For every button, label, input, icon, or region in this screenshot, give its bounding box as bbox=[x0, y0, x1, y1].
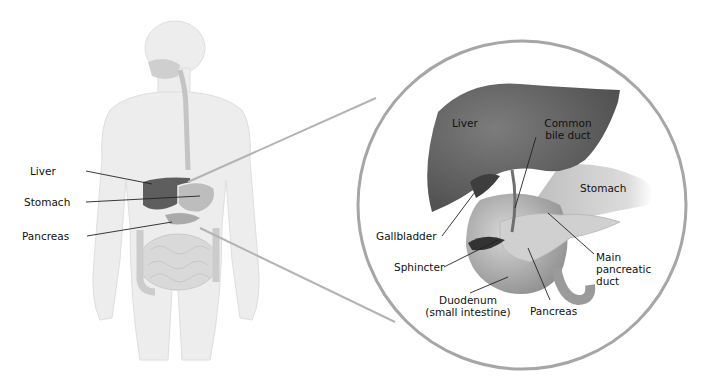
intestines-small bbox=[138, 234, 218, 290]
label-common-bile-duct: Common bile duct bbox=[536, 117, 600, 141]
label-duodenum: Duodenum (small intestine) bbox=[418, 294, 518, 318]
label-sphincter: Sphincter bbox=[394, 261, 444, 273]
label-body-stomach: Stomach bbox=[24, 196, 70, 208]
label-detail-stomach: Stomach bbox=[580, 182, 626, 194]
digestive-diagram: Liver Stomach Pancreas Liver Common bile… bbox=[0, 0, 722, 380]
label-body-liver: Liver bbox=[30, 165, 56, 177]
label-body-pancreas: Pancreas bbox=[22, 230, 69, 242]
label-detail-liver: Liver bbox=[452, 117, 478, 129]
label-detail-pancreas: Pancreas bbox=[530, 305, 577, 317]
label-main-pancreatic-duct: Main pancreatic duct bbox=[596, 251, 651, 287]
label-gallbladder: Gallbladder bbox=[376, 230, 437, 242]
